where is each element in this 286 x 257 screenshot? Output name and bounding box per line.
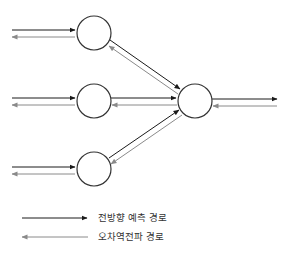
legend-backward-label: 오차역전파 경로 — [98, 231, 164, 243]
output-node — [178, 84, 212, 118]
input-edge-2 — [12, 98, 75, 105]
hidden-node-1 — [77, 16, 111, 50]
hidden1-output-edge — [109, 40, 180, 94]
backward-arrow — [111, 115, 182, 164]
hidden-node-3 — [77, 152, 111, 186]
forward-arrow — [110, 40, 180, 89]
hidden3-output-edge — [109, 110, 182, 164]
input-edge-1 — [12, 30, 75, 37]
output-result-edge — [212, 99, 277, 106]
input-edge-3 — [12, 167, 75, 174]
backward-arrow — [109, 46, 178, 94]
hidden2-output-edge — [111, 98, 177, 105]
forward-arrow — [109, 110, 179, 158]
legend — [22, 218, 88, 237]
hidden-node-2 — [77, 84, 111, 118]
legend-forward-label: 전방향 예측 경로 — [98, 212, 167, 224]
